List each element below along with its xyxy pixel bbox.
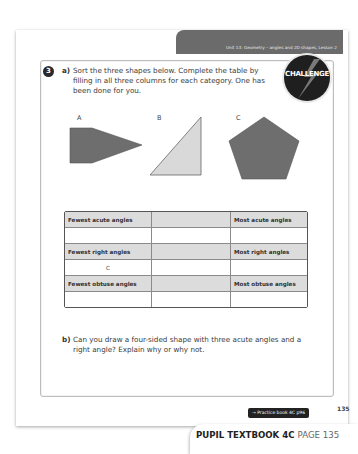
- table-cell: Most acute angles: [231, 212, 307, 228]
- lightning-bolt-icon: [284, 55, 330, 101]
- table-row: [65, 292, 307, 307]
- book-title: PUPIL TEXTBOOK 4C: [196, 430, 295, 440]
- answer-cell[interactable]: [231, 260, 307, 276]
- table-cell: Most obtuse angles: [231, 276, 307, 292]
- table-cell: Fewest right angles: [65, 244, 152, 260]
- table-cell: Most right angles: [231, 244, 307, 260]
- page-number: 135: [337, 405, 350, 412]
- table-cell: [152, 212, 231, 228]
- footer-label: PUPIL TEXTBOOK 4CPAGE 135: [196, 430, 339, 440]
- unit-title: Unit 13: Geometry – angles and 2D shapes…: [226, 45, 337, 50]
- answer-cell[interactable]: [231, 228, 307, 244]
- table-row: Fewest acute angles Most acute angles: [65, 212, 307, 228]
- answer-cell[interactable]: C: [65, 260, 152, 276]
- answer-cell[interactable]: [65, 228, 152, 244]
- part-a-label: a): [62, 66, 70, 75]
- shape-a: [68, 126, 144, 166]
- answer-cell[interactable]: [152, 228, 231, 244]
- table-row: Fewest right angles Most right angles: [65, 244, 307, 260]
- challenge-badge: CHALLENGE: [284, 55, 330, 101]
- answer-cell[interactable]: [65, 292, 152, 307]
- part-a-text: Sort the three shapes below. Complete th…: [73, 66, 273, 96]
- challenge-label: CHALLENGE: [284, 70, 330, 78]
- shape-b: [148, 115, 204, 177]
- unit-header-band: Unit 13: Geometry – angles and 2D shapes…: [176, 30, 343, 54]
- part-b-label: b): [62, 335, 70, 344]
- table-row: C: [65, 260, 307, 276]
- table-cell: [152, 276, 231, 292]
- question-number: 3: [43, 66, 54, 77]
- shape-c: [226, 115, 302, 181]
- sorting-table: Fewest acute angles Most acute angles Fe…: [64, 211, 308, 308]
- practice-book-reference: → Practice book 4C p96: [248, 408, 309, 418]
- book-page: PAGE 135: [298, 430, 340, 440]
- part-b-text: Can you draw a four-sided shape with thr…: [73, 335, 313, 355]
- table-cell: Fewest acute angles: [65, 212, 152, 228]
- table-row: [65, 228, 307, 244]
- answer-cell[interactable]: [231, 292, 307, 307]
- answer-cell[interactable]: [152, 260, 231, 276]
- table-row: Fewest obtuse angles Most obtuse angles: [65, 276, 307, 292]
- table-cell: Fewest obtuse angles: [65, 276, 152, 292]
- table-cell: [152, 244, 231, 260]
- answer-cell[interactable]: [152, 292, 231, 307]
- shape-label-a: A: [77, 114, 81, 122]
